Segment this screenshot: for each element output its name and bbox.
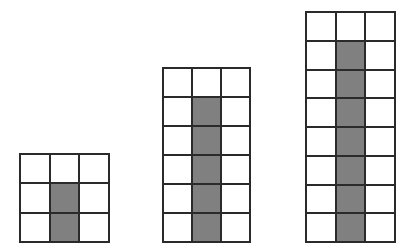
grid-square — [336, 12, 366, 41]
shaded-square — [192, 155, 221, 184]
grid-2 — [162, 67, 251, 243]
grid-square — [365, 185, 395, 214]
grid-square — [221, 97, 250, 126]
grid-square — [221, 126, 250, 155]
grid-square — [365, 41, 395, 70]
grid-square — [20, 213, 50, 242]
grid-square — [163, 126, 192, 155]
grid-square — [79, 183, 109, 212]
grid-square — [163, 155, 192, 184]
grid-square — [221, 184, 250, 213]
shaded-square — [192, 126, 221, 155]
shaded-square — [336, 41, 366, 70]
grid-square — [50, 154, 80, 183]
grid-square — [192, 68, 221, 97]
shaded-square — [192, 97, 221, 126]
grid-square — [163, 97, 192, 126]
grid-square — [306, 127, 336, 156]
grid-square — [306, 98, 336, 127]
shaded-square — [336, 213, 366, 242]
grid-square — [306, 185, 336, 214]
grid-square — [365, 12, 395, 41]
grid-square — [79, 213, 109, 242]
grid-square — [163, 68, 192, 97]
grid-square — [20, 183, 50, 212]
shaded-square — [336, 185, 366, 214]
grid-square — [20, 154, 50, 183]
grid-square — [365, 213, 395, 242]
grid-square — [221, 213, 250, 242]
shaded-square — [192, 213, 221, 242]
shaded-square — [192, 184, 221, 213]
grid-square — [365, 70, 395, 99]
shaded-square — [336, 70, 366, 99]
grid-square — [306, 70, 336, 99]
grid-square — [163, 184, 192, 213]
shaded-square — [336, 127, 366, 156]
grid-square — [365, 127, 395, 156]
shaded-square — [336, 156, 366, 185]
grid-square — [365, 156, 395, 185]
grid-3 — [305, 11, 396, 243]
grid-square — [221, 68, 250, 97]
shaded-square — [50, 213, 80, 242]
grid-square — [306, 41, 336, 70]
grid-1 — [19, 153, 110, 243]
grid-square — [306, 213, 336, 242]
shaded-square — [336, 98, 366, 127]
grid-square — [163, 213, 192, 242]
grid-square — [306, 12, 336, 41]
grid-square — [306, 156, 336, 185]
shaded-square — [50, 183, 80, 212]
grid-square — [365, 98, 395, 127]
grid-square — [79, 154, 109, 183]
grid-square — [221, 155, 250, 184]
